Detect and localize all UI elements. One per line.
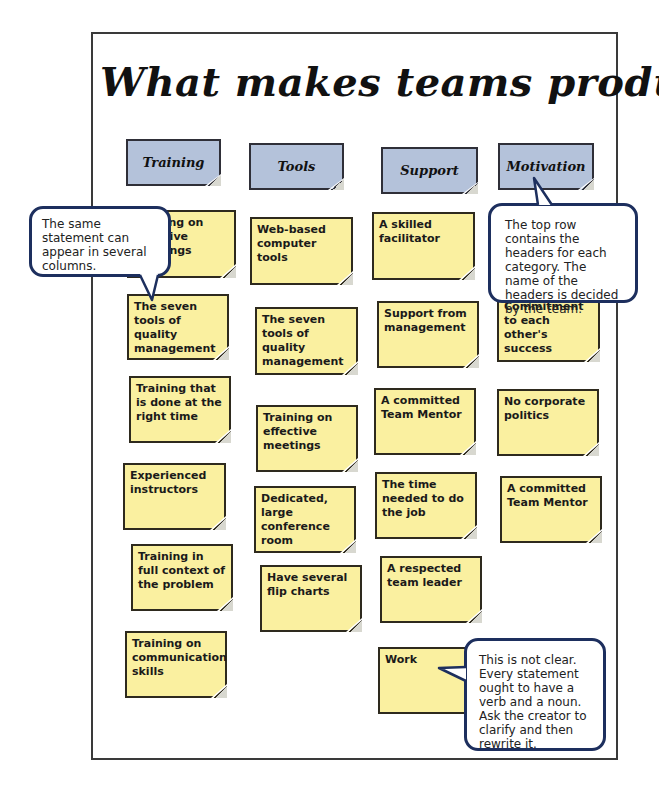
note-motivation-no-politics: No corporate politics bbox=[497, 389, 599, 456]
note-tools-web-based: Web-based computer tools bbox=[250, 217, 353, 285]
note-support-team-leader: A respected team leader bbox=[380, 556, 482, 623]
note-support-skilled-facilitator: A skilled facilitator bbox=[372, 212, 475, 280]
diagram-title: What makes teams productive? bbox=[100, 58, 612, 105]
callout-not-clear: This is not clear. Every statement ought… bbox=[464, 638, 606, 751]
note-training-seven-tools: The seven tools of quality management bbox=[127, 294, 229, 360]
note-support-management: Support from management bbox=[377, 301, 479, 368]
note-training-full-context: Training in full context of the problem bbox=[131, 544, 233, 611]
note-tools-flip-charts: Have several flip charts bbox=[260, 565, 362, 632]
note-motivation-team-mentor: A committed Team Mentor bbox=[500, 476, 602, 543]
header-motivation: Motivation bbox=[498, 143, 594, 190]
note-tools-seven-tools: The seven tools of quality management bbox=[255, 307, 358, 375]
header-tools: Tools bbox=[249, 143, 344, 190]
note-tools-effective-meetings: Training on effective meetings bbox=[256, 405, 358, 472]
callout-top-row: The top row contains the headers for eac… bbox=[488, 203, 638, 303]
note-tools-conference-room: Dedicated, large conference room bbox=[254, 486, 356, 553]
callout-same-statement: The same statement can appear in several… bbox=[29, 206, 171, 277]
header-support: Support bbox=[381, 147, 478, 194]
note-support-team-mentor: A committed Team Mentor bbox=[374, 388, 476, 455]
note-training-right-time: Training that is done at the right time bbox=[129, 376, 231, 443]
note-training-communication-skills: Training on communication skills bbox=[125, 631, 227, 698]
note-training-experienced-instructors: Experienced instructors bbox=[123, 463, 226, 530]
note-support-time-needed: The time needed to do the job bbox=[375, 472, 477, 539]
header-training: Training bbox=[126, 139, 221, 186]
